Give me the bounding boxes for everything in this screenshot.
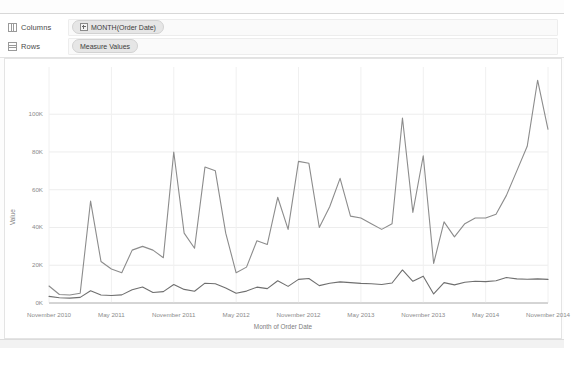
- y-axis-tick-label: 40K: [17, 223, 43, 230]
- x-axis-tick-label: November 2014: [518, 311, 575, 318]
- y-axis-tick-label: 60K: [17, 186, 43, 193]
- y-axis-title: Value: [9, 209, 16, 225]
- workbook-background: [0, 348, 564, 371]
- pill-measure-values-label: Measure Values: [80, 43, 130, 50]
- pill-month-order-date-label: MONTH(Order Date): [91, 24, 156, 31]
- x-axis-tick-label: November 2011: [144, 311, 204, 318]
- columns-shelf[interactable]: Columns MONTH(Order Date): [0, 18, 564, 36]
- columns-label-text: Columns: [21, 23, 51, 32]
- shelf-region: Columns MONTH(Order Date) Rows Measure V…: [0, 13, 564, 58]
- x-axis-tick-label: November 2012: [269, 311, 329, 318]
- x-axis-tick-label: May 2014: [456, 311, 516, 318]
- rows-shelf[interactable]: Rows Measure Values: [0, 37, 564, 55]
- pill-measure-values[interactable]: Measure Values: [72, 39, 138, 53]
- columns-shelf-well[interactable]: MONTH(Order Date): [68, 19, 558, 36]
- pill-month-order-date[interactable]: MONTH(Order Date): [72, 20, 164, 34]
- columns-grid-icon: [8, 23, 17, 32]
- rows-shelf-label: Rows: [8, 42, 68, 51]
- columns-shelf-label: Columns: [8, 23, 68, 32]
- x-axis-tick-label: May 2013: [331, 311, 391, 318]
- rows-grid-icon: [8, 42, 17, 51]
- rows-shelf-well[interactable]: Measure Values: [68, 38, 558, 55]
- y-axis-tick-label: 80K: [17, 148, 43, 155]
- line-chart-plot: [5, 59, 561, 338]
- x-axis-tick-label: November 2013: [393, 311, 453, 318]
- x-axis-tick-label: May 2012: [206, 311, 266, 318]
- x-axis-title: Month of Order Date: [5, 323, 561, 330]
- y-axis-tick-label: 0K: [17, 299, 43, 306]
- chart-canvas: Value Month of Order Date 0K20K40K60K80K…: [4, 58, 562, 339]
- rows-label-text: Rows: [21, 42, 40, 51]
- plus-expand-icon[interactable]: [80, 23, 88, 31]
- y-axis-tick-label: 100K: [17, 110, 43, 117]
- y-axis-tick-label: 20K: [17, 261, 43, 268]
- x-axis-tick-label: November 2010: [19, 311, 79, 318]
- x-axis-tick-label: May 2011: [81, 311, 141, 318]
